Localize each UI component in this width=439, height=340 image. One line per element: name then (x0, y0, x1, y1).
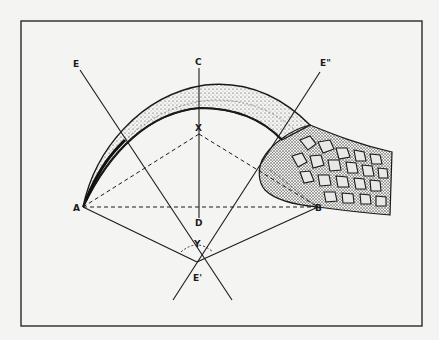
claw-geometry-diagram: E C E" X A B D Y E' (0, 0, 439, 340)
label-b: B (315, 203, 322, 213)
line-a-e1 (83, 207, 197, 262)
label-c: C (195, 57, 202, 67)
label-e-double-prime: E" (320, 58, 331, 68)
label-a: A (73, 203, 80, 213)
label-x: X (195, 123, 202, 133)
label-e: E (73, 59, 79, 69)
label-d: D (195, 218, 202, 228)
label-y: Y (193, 239, 201, 249)
label-e-prime: E' (193, 273, 202, 283)
